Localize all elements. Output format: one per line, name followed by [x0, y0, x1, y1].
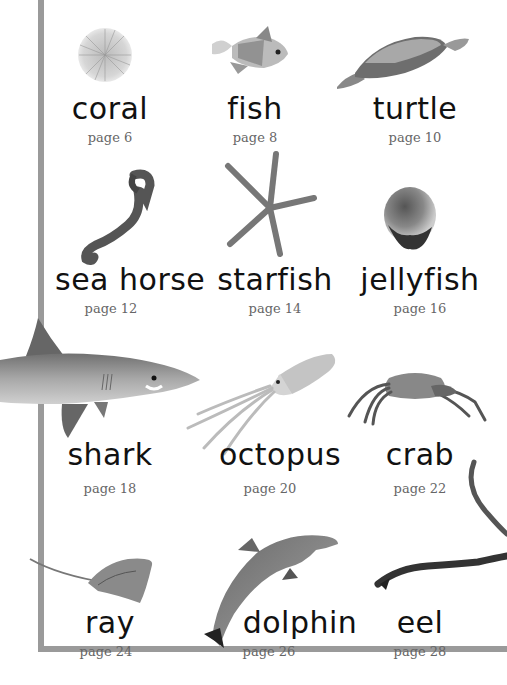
- coral-icon: [75, 25, 135, 85]
- page-number: page 14: [210, 302, 340, 315]
- eel-icon: [378, 458, 507, 598]
- page-number: page 12: [55, 302, 195, 315]
- index-item-coral[interactable]: coral page 6: [60, 94, 160, 150]
- animal-name: shark: [60, 440, 160, 470]
- index-item-starfish[interactable]: starfish page 14: [210, 265, 340, 321]
- animal-name: ray: [60, 608, 160, 638]
- jellyfish-icon: [380, 185, 440, 255]
- animal-name: jellyfish: [355, 265, 485, 295]
- index-item-sea-horse[interactable]: sea horse page 12: [55, 265, 195, 321]
- crab-icon: [345, 368, 495, 428]
- page-number: page 10: [355, 131, 475, 144]
- page-number: page 16: [355, 302, 485, 315]
- page-number: page 24: [60, 645, 160, 658]
- index-item-dolphin[interactable]: dolphin page 26: [230, 608, 370, 664]
- index-item-turtle[interactable]: turtle page 10: [355, 94, 475, 150]
- index-item-ray[interactable]: ray page 24: [60, 608, 160, 664]
- animal-name: eel: [370, 608, 470, 638]
- animal-name: starfish: [210, 265, 340, 295]
- page-number: page 8: [205, 131, 305, 144]
- animal-name: fish: [205, 94, 305, 124]
- shark-icon: [0, 318, 202, 443]
- page-number: page 18: [60, 482, 160, 495]
- index-item-octopus[interactable]: octopus page 20: [215, 440, 345, 496]
- index-item-shark[interactable]: shark page 18: [60, 440, 160, 496]
- page-number: page 28: [370, 645, 470, 658]
- animal-name: sea horse: [55, 265, 195, 295]
- animal-name: coral: [60, 94, 160, 124]
- page-number: page 26: [230, 645, 370, 658]
- index-item-fish[interactable]: fish page 8: [205, 94, 305, 150]
- animal-name: turtle: [355, 94, 475, 124]
- animal-name: octopus: [215, 440, 345, 470]
- page-number: page 6: [60, 131, 160, 144]
- seahorse-icon: [72, 165, 162, 265]
- index-item-eel[interactable]: eel page 28: [370, 608, 470, 664]
- index-item-jellyfish[interactable]: jellyfish page 16: [355, 265, 485, 321]
- starfish-icon: [222, 150, 322, 260]
- turtle-icon: [335, 25, 475, 90]
- fish-icon: [208, 22, 298, 82]
- animal-name: dolphin: [230, 608, 370, 638]
- page-number: page 20: [215, 482, 345, 495]
